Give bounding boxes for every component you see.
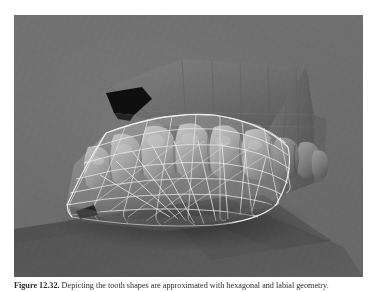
dental-model-render bbox=[14, 15, 363, 277]
render-viewport bbox=[14, 15, 363, 277]
figure-caption-text: Depicting the tooth shapes are approxima… bbox=[62, 281, 329, 290]
figure-caption: Figure 12.32. Depicting the tooth shapes… bbox=[14, 281, 364, 290]
figure-caption-label: Figure 12.32. bbox=[14, 281, 60, 290]
figure-block: Figure 12.32. Depicting the tooth shapes… bbox=[0, 0, 375, 292]
